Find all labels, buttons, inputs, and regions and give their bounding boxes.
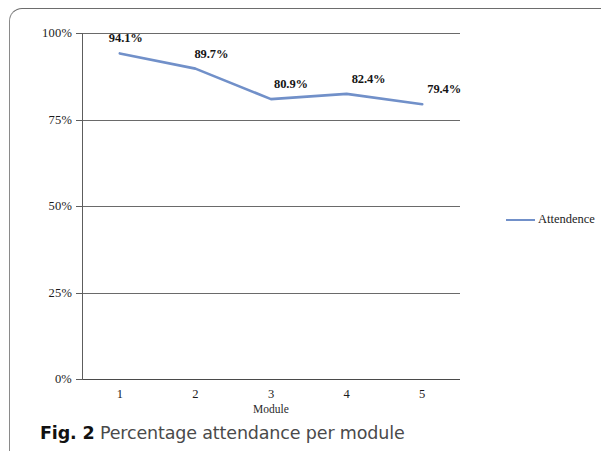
legend-label-attendence: Attendence (538, 212, 595, 227)
ytick-label-50pct: 50% (10, 199, 72, 214)
attendance-line-series (10, 9, 601, 409)
data-label-module-2: 89.7% (194, 47, 228, 62)
ytick-label-100pct: 100% (10, 26, 72, 41)
xtick-label-1: 1 (117, 387, 123, 402)
legend-line-swatch-attendence (506, 219, 535, 221)
figure-caption: Fig. 2 Percentage attendance per module (40, 423, 405, 443)
figure-caption-text: Percentage attendance per module (100, 423, 405, 443)
ytick-label-25pct: 25% (10, 285, 72, 300)
data-label-module-3: 80.9% (274, 77, 308, 92)
data-label-module-4: 82.4% (352, 72, 386, 87)
xtick-label-4: 4 (343, 387, 349, 402)
x-axis-title: Module (82, 403, 460, 415)
xtick-label-3: 3 (268, 387, 274, 402)
figure-caption-number: Fig. 2 (40, 423, 95, 443)
data-label-module-5: 79.4% (427, 82, 461, 97)
chart-region: Module 0%25%50%75%100%1234594.1%89.7%80.… (10, 9, 601, 409)
xtick-label-5: 5 (419, 387, 425, 402)
chart-legend: Attendence (506, 212, 595, 227)
data-label-module-1: 94.1% (109, 31, 143, 46)
ytick-label-0pct: 0% (10, 372, 72, 387)
xtick-label-2: 2 (192, 387, 198, 402)
ytick-label-75pct: 75% (10, 112, 72, 127)
figure-frame: Module 0%25%50%75%100%1234594.1%89.7%80.… (9, 8, 601, 451)
